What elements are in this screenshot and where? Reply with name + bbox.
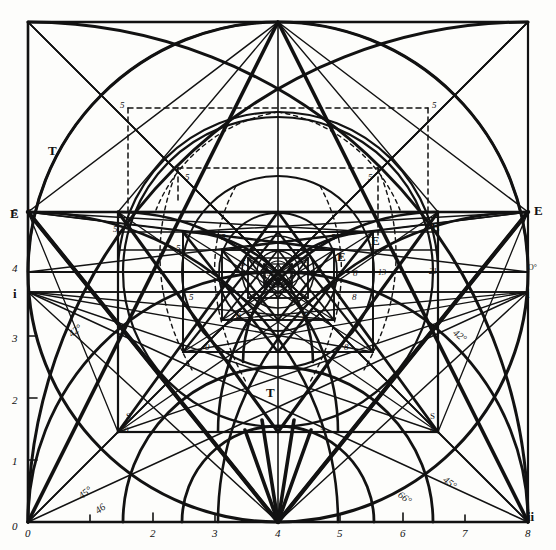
point-label-5-38: 5 — [189, 292, 194, 302]
radiating-lines-i-right — [118, 292, 528, 522]
point-label-0-14: 0 — [124, 425, 129, 435]
point-label-e-5: E — [371, 233, 380, 249]
point-label-s-13: S — [430, 411, 435, 421]
point-label-8-30: 8 — [353, 268, 358, 278]
point-label-i-9: i — [526, 286, 530, 302]
x-tick-7: 7 — [462, 527, 468, 539]
drawing-group — [28, 22, 528, 522]
x-tick-3: 3 — [212, 527, 218, 539]
point-label-t-1: T — [266, 385, 275, 401]
point-label-5-36: 5 — [302, 311, 307, 321]
x-tick-4: 4 — [275, 527, 281, 539]
point-label-o°-10: O° — [528, 263, 537, 272]
point-label-0-35: 0 — [236, 311, 241, 321]
point-label-s-12: S — [126, 411, 131, 421]
geometric-construction-svg — [0, 0, 556, 550]
point-label-5-22: 5 — [221, 232, 226, 242]
y-tick-2: 2 — [12, 394, 18, 406]
point-label-5-24: 5 — [176, 243, 181, 253]
x-tick-6: 6 — [400, 527, 406, 539]
x-tick-8: 8 — [525, 527, 531, 539]
point-label-21-32: 21 — [429, 267, 437, 276]
point-label-8-37: 8 — [352, 292, 357, 302]
point-label-5-25: 5 — [241, 258, 246, 268]
y-tick-0: 0 — [12, 520, 18, 532]
x-tick-0: 0 — [25, 527, 31, 539]
point-label-8-15: 8 — [430, 425, 435, 435]
point-label-5-29: 5 — [267, 268, 272, 278]
y-tick-4: 4 — [12, 262, 18, 274]
point-label-5-21: 5 — [113, 224, 118, 234]
y-tick-5: 5 — [12, 206, 18, 218]
point-label-5-18: 5 — [432, 100, 437, 110]
point-label-3-28: 3 — [285, 266, 290, 276]
x-tick-2: 2 — [150, 527, 156, 539]
point-label-5-16: 5 — [320, 425, 325, 435]
point-label-8-34: 8 — [344, 342, 349, 352]
figure-canvas: TTE5EEEEiiO°iiSS085555555555553581321080… — [0, 0, 556, 550]
point-label-5-3: 5 — [28, 207, 33, 217]
point-label-5-19: 5 — [185, 172, 190, 182]
point-label-5-20: 5 — [368, 172, 373, 182]
point-label-e-7: E — [337, 249, 346, 265]
y-tick-3: 3 — [12, 332, 18, 344]
point-label-13-31: 13 — [378, 268, 386, 277]
point-label-t-0: T — [48, 143, 57, 159]
x-tick-5: 5 — [337, 527, 343, 539]
point-label-0-33: 0 — [205, 342, 210, 352]
point-label-e-6: E — [431, 219, 440, 235]
point-label-i-8: i — [13, 286, 17, 302]
point-label-ii-11: ii — [527, 509, 534, 525]
point-label-e-4: E — [534, 203, 543, 219]
point-label-5-26: 5 — [304, 258, 309, 268]
point-label-5-23: 5 — [331, 232, 336, 242]
point-label-5-17: 5 — [120, 100, 125, 110]
point-label-5-27: 5 — [316, 264, 321, 274]
y-tick-1: 1 — [12, 455, 18, 467]
